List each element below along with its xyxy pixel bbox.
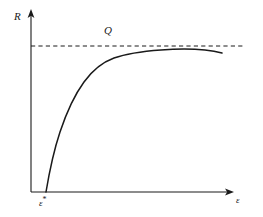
threshold-label: ε* — [39, 196, 47, 208]
y-axis — [28, 9, 35, 192]
plot-svg — [0, 0, 263, 217]
x-axis-label: ε — [236, 196, 240, 205]
threshold-label-superscript: * — [43, 195, 47, 204]
asymptote-label: Q — [104, 25, 112, 36]
x-axis — [31, 189, 234, 196]
figure-canvas: R ε Q ε* — [0, 0, 263, 217]
y-axis-label: R — [14, 11, 21, 22]
response-curve-guide — [46, 51, 222, 192]
response-curve — [46, 49, 222, 192]
